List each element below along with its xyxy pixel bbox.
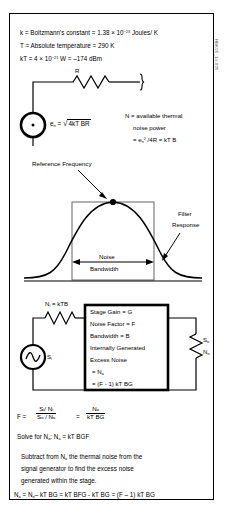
figure-page: HBK05_14-005 k = Boltzmann's constant = … [0, 0, 233, 513]
input-signal-sub: i [51, 357, 52, 361]
subtract-instruction-line3: generated within the stage. [21, 478, 97, 484]
noise-factor-equals: = [76, 414, 80, 420]
input-signal-label: Si [47, 354, 52, 362]
subtract-post: the thermal noise from the [67, 453, 142, 460]
output-noise-label: No [203, 349, 210, 357]
stage-box-line-3: Internally Generated [90, 345, 145, 351]
stage-box-line-0: Stage Gain = G [90, 309, 132, 315]
stage-box-line-1: Noise Factor = F [90, 321, 135, 327]
excess-noise-sub: a [102, 372, 104, 376]
noise-factor-ratio-fraction: Sᵢ/ Nᵢ Sₒ / Nₒ [36, 406, 56, 421]
subtract-pre: Subtract from N [21, 453, 65, 460]
solve-for-no-line: Solve for No: No = kT BGF [17, 434, 89, 441]
noise-factor-symbol: F = [17, 414, 26, 420]
noise-power-ratio-fraction: Nₒ kT BG [86, 406, 105, 421]
stage-box-line-na: = Na [92, 369, 104, 377]
input-noise-post: = kTB [50, 300, 68, 307]
solve-tail: = kT BGF [61, 433, 90, 440]
excess-noise-pre: = N [92, 368, 102, 375]
output-signal-sub: o [207, 340, 209, 344]
output-signal-label: So [203, 337, 209, 345]
stage-box-line-2: Bandwidth = B [90, 333, 129, 339]
input-noise-label: Ni = kTB [45, 301, 68, 309]
final-mid: = N [21, 491, 33, 498]
final-excess-noise-equation: Na = No– kT BG = kT BFG - kT BG = (F – 1… [14, 492, 155, 499]
noise-power-denominator: kT BG [86, 414, 105, 421]
stage-box-line-last: = (F - 1) kT BG [92, 381, 133, 387]
stage-box-line-4: Excess Noise [90, 357, 127, 363]
noise-factor-denominator: Sₒ / Nₒ [36, 414, 56, 421]
subtract-instruction-line2: signal generator to find the excess nois… [21, 466, 134, 472]
solve-pre: Solve for N [17, 433, 48, 440]
output-noise-sub: o [207, 352, 209, 356]
subtract-instruction-line1: Subtract from No the thermal noise from … [21, 454, 142, 461]
final-tail: – kT BG = kT BFG - kT BG = (F – 1) kT BG [35, 491, 155, 498]
